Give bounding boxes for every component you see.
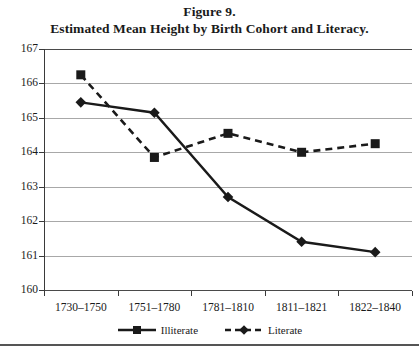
data-point-illiterate-3 xyxy=(296,237,307,248)
y-axis-label-166: 166 xyxy=(8,77,38,89)
y-axis-tick-163 xyxy=(39,187,44,188)
y-axis-label-162: 162 xyxy=(8,215,38,227)
data-point-literate-2 xyxy=(224,129,233,138)
y-axis-label-167: 167 xyxy=(8,43,38,55)
y-axis-tick-164 xyxy=(39,152,44,153)
legend-swatch-square-marker xyxy=(117,324,157,336)
data-point-literate-4 xyxy=(371,139,380,148)
y-axis-tick-165 xyxy=(39,118,44,119)
figure-title: Figure 9. Estimated Mean Height by Birth… xyxy=(0,0,419,37)
legend-label-literate: Literate xyxy=(268,324,302,336)
x-axis-label-1: 1751–1780 xyxy=(129,301,181,313)
chart-legend: IlliterateLiterate xyxy=(0,322,419,336)
series-line-literate xyxy=(81,75,375,158)
x-axis-labels: 1730–17501751–17801781–18101811–18211822… xyxy=(0,301,419,317)
y-axis-label-160: 160 xyxy=(8,284,38,296)
x-axis-label-2: 1781–1810 xyxy=(202,301,254,313)
y-axis-tick-162 xyxy=(39,221,44,222)
y-axis-tick-166 xyxy=(39,83,44,84)
series-layer xyxy=(0,44,419,296)
x-axis-tick-3 xyxy=(265,291,266,296)
x-axis-label-4: 1822–1840 xyxy=(349,301,401,313)
chart-plot-area: 160161162163164165166167 xyxy=(0,44,419,296)
legend-swatch-diamond-marker xyxy=(224,324,264,336)
x-axis-label-0: 1730–1750 xyxy=(55,301,107,313)
y-axis-tick-167 xyxy=(39,49,44,50)
data-point-illiterate-0 xyxy=(76,97,87,108)
data-point-literate-1 xyxy=(150,153,159,162)
legend-label-illiterate: Illiterate xyxy=(161,324,198,336)
data-point-illiterate-4 xyxy=(370,247,381,258)
figure-title-line-2: Estimated Mean Height by Birth Cohort an… xyxy=(0,20,419,37)
data-point-literate-0 xyxy=(76,70,85,79)
x-axis-tick-0 xyxy=(44,291,45,296)
y-axis-label-165: 165 xyxy=(8,112,38,124)
legend-square-marker xyxy=(133,326,141,334)
x-axis-tick-1 xyxy=(118,291,119,296)
legend-item-illiterate[interactable]: Illiterate xyxy=(117,323,198,336)
figure-title-line-1: Figure 9. xyxy=(0,3,419,20)
x-axis-tick-4 xyxy=(338,291,339,296)
legend-item-literate[interactable]: Literate xyxy=(224,323,302,336)
y-axis-label-163: 163 xyxy=(8,181,38,193)
bottom-divider xyxy=(0,344,419,346)
y-axis-tick-161 xyxy=(39,256,44,257)
data-point-literate-3 xyxy=(297,148,306,157)
x-axis-tick-2 xyxy=(191,291,192,296)
y-axis-label-161: 161 xyxy=(8,250,38,262)
y-axis-label-164: 164 xyxy=(8,146,38,158)
x-axis-label-3: 1811–1821 xyxy=(276,301,327,313)
legend-diamond-marker xyxy=(239,325,249,335)
x-axis-tick-5 xyxy=(412,291,413,296)
